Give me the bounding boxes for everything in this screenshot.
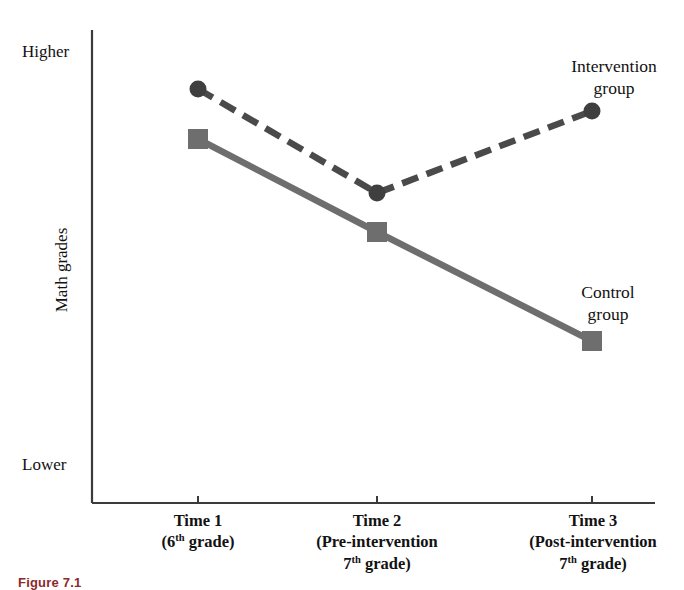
marker-control-group-time-3 — [582, 331, 602, 351]
x-tick-label-time-1: Time 1 (6th grade) — [128, 510, 268, 553]
x-tick-label-time-2: Time 2 (Pre-intervention 7th grade) — [297, 510, 457, 574]
y-axis-title: Math grades — [52, 228, 72, 313]
y-axis-high-label: Higher — [22, 42, 69, 62]
x-tick-label-time-1-name: Time 1 — [128, 510, 268, 531]
legend-control-line2: group — [556, 303, 660, 325]
x-tick-label-time-3-detail2: 7th grade) — [498, 553, 684, 574]
x-tick-label-time-3-name: Time 3 — [498, 510, 684, 531]
figure-caption: Figure 7.1 — [18, 575, 81, 590]
x-tick-label-time-1-detail: (6th grade) — [128, 531, 268, 552]
marker-control-group-time-2 — [367, 222, 387, 242]
x-tick-label-time-3-detail1: (Post-intervention — [498, 531, 684, 552]
legend-intervention-line1: Intervention — [548, 55, 680, 77]
marker-control-group-time-1 — [188, 129, 208, 149]
legend-intervention-line2: group — [548, 77, 680, 99]
y-axis-low-label: Lower — [22, 455, 66, 475]
marker-intervention-group-time-3 — [584, 103, 601, 120]
x-tick-label-time-2-detail2: 7th grade) — [297, 553, 457, 574]
series-line-control-group — [198, 139, 592, 341]
legend-intervention-group: Intervention group — [548, 55, 680, 100]
legend-control-line1: Control — [556, 281, 660, 303]
x-tick-label-time-3: Time 3 (Post-intervention 7th grade) — [498, 510, 684, 574]
x-tick-label-time-2-detail1: (Pre-intervention — [297, 531, 457, 552]
marker-intervention-group-time-1 — [190, 81, 207, 98]
series-line-intervention-group — [198, 89, 592, 193]
marker-intervention-group-time-2 — [369, 185, 386, 202]
legend-control-group: Control group — [556, 281, 660, 326]
x-tick-label-time-2-name: Time 2 — [297, 510, 457, 531]
